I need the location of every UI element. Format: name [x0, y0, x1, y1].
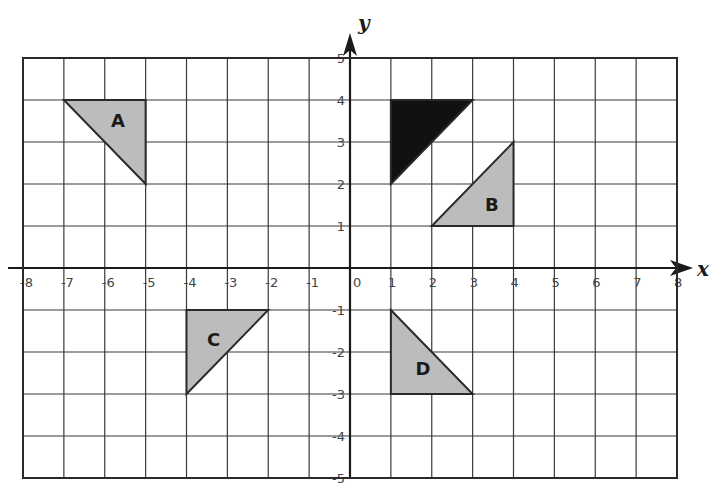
y-tick-label: 2 — [337, 177, 345, 192]
y-tick-label: 1 — [337, 219, 345, 234]
x-axis-label: x — [696, 257, 710, 281]
x-tick-label: -8 — [20, 275, 33, 290]
coordinate-plane-figure: ABCD x y -8-7-6-5-4-3-2-101234567854321-… — [0, 0, 721, 491]
x-tick-label: 8 — [674, 275, 682, 290]
y-tick-label: -1 — [332, 303, 345, 318]
y-axis-label: y — [357, 11, 371, 35]
x-tick-label: 5 — [551, 275, 559, 290]
x-tick-label: 1 — [388, 275, 396, 290]
triangle-label-b: B — [485, 194, 499, 215]
triangle-label-a: A — [111, 110, 125, 131]
x-tick-label: -4 — [184, 275, 197, 290]
y-tick-label: -2 — [332, 345, 345, 360]
triangle-label-c: C — [207, 329, 220, 350]
x-tick-label: 2 — [429, 275, 437, 290]
x-tick-label: -1 — [306, 275, 319, 290]
x-tick-label: -2 — [265, 275, 278, 290]
x-tick-label: 4 — [511, 275, 519, 290]
x-tick-label: -3 — [224, 275, 237, 290]
y-tick-label: 3 — [337, 135, 345, 150]
x-tick-label: 3 — [470, 275, 478, 290]
x-tick-label: 7 — [633, 275, 641, 290]
triangles: ABCD — [64, 100, 514, 394]
triangle-label-d: D — [415, 358, 430, 379]
x-tick-label: -7 — [61, 275, 74, 290]
x-tick-label: -5 — [143, 275, 156, 290]
x-tick-label: -6 — [102, 275, 115, 290]
axes: x y — [8, 11, 710, 478]
y-tick-label: -4 — [332, 429, 345, 444]
y-tick-label: -3 — [332, 387, 345, 402]
x-tick-label: 0 — [353, 275, 361, 290]
coordinate-plane: ABCD x y -8-7-6-5-4-3-2-101234567854321-… — [0, 0, 721, 491]
x-tick-label: 6 — [592, 275, 600, 290]
y-tick-label: 4 — [337, 93, 345, 108]
